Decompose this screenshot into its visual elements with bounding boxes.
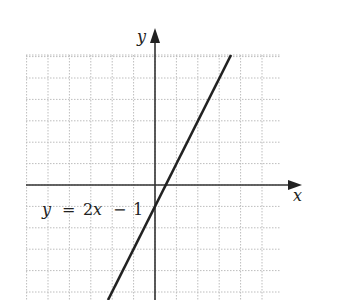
- svg-text:x: x: [93, 200, 102, 219]
- svg-text:1: 1: [133, 200, 143, 219]
- y-axis-label: y: [136, 27, 147, 46]
- equation-label: y = 2 x − 1: [41, 200, 143, 219]
- grid: [26, 55, 280, 300]
- function-line: [108, 55, 231, 300]
- svg-text:2: 2: [83, 200, 93, 219]
- svg-text:−: −: [113, 200, 126, 219]
- coordinate-plane: y x y = 2 x − 1: [0, 0, 342, 300]
- y-axis-arrow-icon: [150, 28, 160, 43]
- svg-text:=: =: [62, 200, 75, 219]
- x-axis-label: x: [293, 186, 302, 205]
- svg-text:y: y: [41, 200, 52, 219]
